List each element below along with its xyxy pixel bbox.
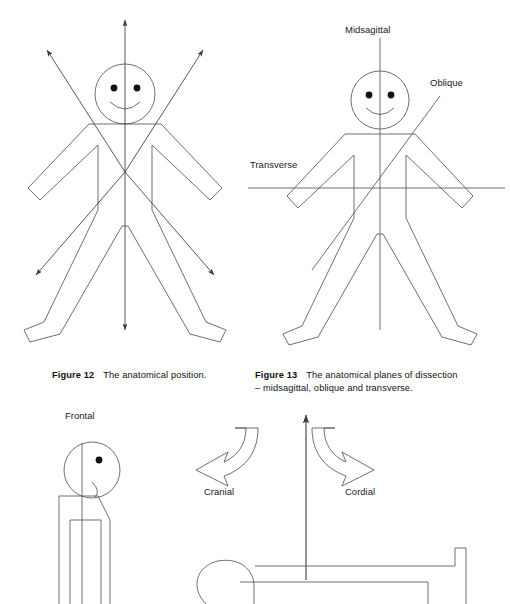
figure-12-caption: Figure 12The anatomical position. <box>52 369 206 382</box>
fig12-right-leg <box>128 210 226 342</box>
fig12-left-leg <box>24 210 122 342</box>
fig12-upper-left-arrow <box>47 50 125 172</box>
fig13-left-arm <box>287 134 354 208</box>
figure-page: Midsagittal Oblique Transverse Figure 12… <box>0 0 510 604</box>
figure-13-caption: Figure 13The anatomical planes of dissec… <box>255 369 505 394</box>
fig14-eye <box>96 457 103 464</box>
figure-13-artwork <box>248 38 505 345</box>
transverse-label: Transverse <box>250 159 297 171</box>
fig12-left-arm <box>28 124 98 200</box>
oblique-label: Oblique <box>430 77 463 89</box>
fig14b-body-inner <box>240 582 428 604</box>
figure-12-caption-text: The anatomical position. <box>103 370 206 380</box>
figure-14-artwork <box>59 415 466 604</box>
fig12-lower-right-arrow <box>125 172 214 275</box>
fig14-head <box>64 442 120 498</box>
figure-12-caption-label: Figure 12 <box>52 370 94 380</box>
fig12-right-arm <box>152 124 222 200</box>
figure-13-caption-text-line2: – midsagittal, oblique and transverse. <box>255 382 505 395</box>
fig12-right-eye <box>134 85 141 92</box>
figure-12-artwork <box>24 20 226 342</box>
cordial-curved-arrow-icon <box>312 428 374 486</box>
fig13-oblique-plane-line <box>312 96 440 270</box>
fig13-left-eye <box>366 92 373 99</box>
cordial-label: Cordial <box>345 486 375 497</box>
figure-13-caption-label: Figure 13 <box>255 370 297 380</box>
fig13-left-leg <box>283 218 377 345</box>
fig13-right-eye <box>388 92 395 99</box>
fig12-upper-right-arrow <box>125 50 203 172</box>
frontal-label: Frontal <box>65 410 95 421</box>
figure-13-caption-text: The anatomical planes of dissection <box>306 370 457 380</box>
fig13-right-leg <box>383 218 477 345</box>
fig12-lower-left-arrow <box>36 172 125 275</box>
fig14b-body-top <box>255 548 466 604</box>
fig12-left-eye <box>111 85 118 92</box>
cranial-label: Cranial <box>204 486 234 497</box>
cranial-curved-arrow-icon <box>196 428 258 486</box>
fig13-right-arm <box>406 134 473 208</box>
fig14-body-right <box>59 496 110 604</box>
midsagittal-label: Midsagittal <box>345 24 390 36</box>
figures-artwork <box>0 0 510 604</box>
fig14-profile-mouth <box>92 482 97 497</box>
fig14-inner-left <box>70 520 101 604</box>
